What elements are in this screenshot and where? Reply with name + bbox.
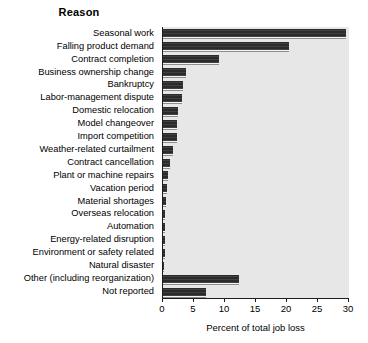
x-tick <box>348 298 349 302</box>
bar <box>163 197 166 205</box>
bar-row <box>163 66 349 79</box>
bar-row <box>163 79 349 92</box>
bar-row <box>163 182 349 195</box>
category-axis: Seasonal workFalling product demandContr… <box>0 27 158 298</box>
category-label: Vacation period <box>0 182 158 195</box>
category-label: Import competition <box>0 130 158 143</box>
x-tick-label: 5 <box>190 303 195 314</box>
bar-row <box>163 208 349 221</box>
bar <box>163 236 165 244</box>
chart-title: Reason <box>0 6 158 18</box>
bar-row <box>163 92 349 105</box>
category-label: Bankruptcy <box>0 79 158 92</box>
x-tick <box>224 298 225 302</box>
x-tick-label: 25 <box>312 303 323 314</box>
x-tick-label: 15 <box>250 303 261 314</box>
category-label: Natural disaster <box>0 259 158 272</box>
bar <box>163 184 167 192</box>
x-tick <box>317 298 318 302</box>
bar-row <box>163 272 349 285</box>
x-tick <box>162 298 163 302</box>
bar <box>163 275 239 283</box>
category-label: Weather-related curtailment <box>0 143 158 156</box>
bar <box>163 94 182 102</box>
bar-row <box>163 117 349 130</box>
bar <box>163 223 165 231</box>
bar-row <box>163 195 349 208</box>
plot-area <box>162 27 349 298</box>
category-label: Energy-related disruption <box>0 234 158 247</box>
bar-row <box>163 40 349 53</box>
bar-row <box>163 259 349 272</box>
bar <box>163 107 178 115</box>
bar <box>163 210 165 218</box>
category-label: Contract completion <box>0 53 158 66</box>
category-label: Model changeover <box>0 117 158 130</box>
x-tick <box>286 298 287 302</box>
bar <box>163 68 186 76</box>
bar-chart: Reason Seasonal workFalling product dema… <box>0 0 368 343</box>
bar <box>163 133 177 141</box>
bar <box>163 81 183 89</box>
bar <box>163 146 173 154</box>
x-tick-label: 0 <box>159 303 164 314</box>
category-label: Environment or safety related <box>0 246 158 259</box>
bar-row <box>163 27 349 40</box>
bar <box>163 171 168 179</box>
bar-row <box>163 234 349 247</box>
bar <box>163 288 206 296</box>
bar-series <box>163 27 349 298</box>
category-label: Other (including reorganization) <box>0 272 158 285</box>
bar <box>163 42 289 50</box>
bar-row <box>163 156 349 169</box>
x-tick-label: 20 <box>281 303 292 314</box>
x-tick <box>255 298 256 302</box>
category-label: Material shortages <box>0 195 158 208</box>
bar-row <box>163 285 349 298</box>
x-tick-label: 10 <box>219 303 230 314</box>
category-label: Contract cancellation <box>0 156 158 169</box>
bar <box>163 29 346 37</box>
category-label: Falling product demand <box>0 40 158 53</box>
category-label: Labor-management dispute <box>0 92 158 105</box>
x-tick-label: 30 <box>343 303 354 314</box>
bar-row <box>163 221 349 234</box>
bar <box>163 249 165 257</box>
bar-row <box>163 104 349 117</box>
category-label: Business ownership change <box>0 66 158 79</box>
category-label: Automation <box>0 221 158 234</box>
x-tick <box>193 298 194 302</box>
bar-row <box>163 130 349 143</box>
category-label: Seasonal work <box>0 27 158 40</box>
bar-row <box>163 169 349 182</box>
bar <box>163 120 177 128</box>
x-axis: 051015202530 <box>162 298 349 299</box>
category-label: Plant or machine repairs <box>0 169 158 182</box>
bar <box>163 262 164 270</box>
category-label: Overseas relocation <box>0 208 158 221</box>
bar-row <box>163 143 349 156</box>
bar-row <box>163 53 349 66</box>
bar <box>163 55 219 63</box>
bar-row <box>163 246 349 259</box>
category-label: Domestic relocation <box>0 104 158 117</box>
bar <box>163 159 170 167</box>
x-axis-title: Percent of total job loss <box>162 322 349 333</box>
category-label: Not reported <box>0 285 158 298</box>
